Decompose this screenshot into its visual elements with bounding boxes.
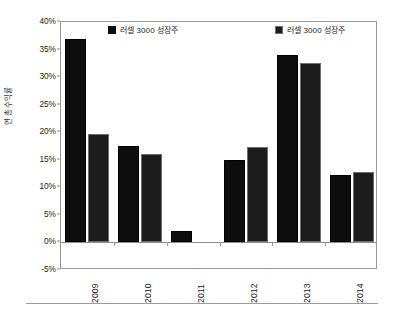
legend-label: 러셀 3000 성장주 xyxy=(120,24,178,35)
legend-item[interactable]: 러셀 3000 성장주 xyxy=(108,24,178,35)
y-axis-tick-label: 10% xyxy=(22,181,56,191)
bar xyxy=(300,63,321,242)
bar xyxy=(141,154,162,242)
y-axis-tick-label: 20% xyxy=(22,126,56,136)
chart-legend: 러셀 3000 성장주러셀 3000 성장주 xyxy=(60,24,377,38)
x-axis-tick-label: 2009 xyxy=(90,283,100,303)
bar xyxy=(88,134,109,242)
y-axis-tick-label: 25% xyxy=(22,99,56,109)
legend-item[interactable]: 러셀 3000 성장주 xyxy=(275,24,345,35)
footer-rule xyxy=(26,303,378,304)
y-axis-title: 연 총수익률 xyxy=(2,66,16,146)
plot-frame xyxy=(60,21,377,269)
bar xyxy=(118,146,139,242)
y-axis-tick-label: 5% xyxy=(22,209,56,219)
y-axis-tick-label: -5% xyxy=(22,264,56,274)
x-axis-tick-label: 2011 xyxy=(196,284,206,303)
x-axis-tick-label: 2010 xyxy=(143,283,153,303)
x-axis-tick-label: 2013 xyxy=(302,283,312,303)
y-axis-tick-labels: 40%35%30%25%20%15%10%5%0%-5% xyxy=(22,21,60,269)
bar xyxy=(65,39,86,243)
zero-baseline xyxy=(61,242,376,243)
bar xyxy=(247,147,268,242)
x-axis-tick-mark xyxy=(220,242,221,246)
y-axis-tick-label: 30% xyxy=(22,71,56,81)
plot-area xyxy=(61,22,376,268)
x-axis-tick-mark xyxy=(272,242,273,246)
bar xyxy=(277,55,298,242)
legend-label: 러셀 3000 성장주 xyxy=(287,24,345,35)
y-axis-tick-label: 0% xyxy=(22,236,56,246)
x-axis-tick-mark xyxy=(325,242,326,246)
x-axis-tick-label: 2012 xyxy=(249,283,259,303)
y-axis-tick-label: 15% xyxy=(22,154,56,164)
bar xyxy=(330,175,351,243)
bar xyxy=(224,160,245,243)
legend-swatch-icon xyxy=(108,26,116,34)
chart-figure: 연 총수익률 40%35%30%25%20%15%10%5%0%-5% 러셀 3… xyxy=(0,0,404,319)
bar xyxy=(353,172,374,242)
x-axis-tick-labels: 200920102011201220132014 xyxy=(60,271,377,311)
y-axis-tick-label: 40% xyxy=(22,16,56,26)
x-axis-tick-label: 2014 xyxy=(355,283,365,303)
bar xyxy=(171,231,192,242)
x-axis-tick-mark xyxy=(114,242,115,246)
y-axis-tick-label: 35% xyxy=(22,44,56,54)
legend-swatch-icon xyxy=(275,26,283,34)
x-axis-tick-mark xyxy=(167,242,168,246)
